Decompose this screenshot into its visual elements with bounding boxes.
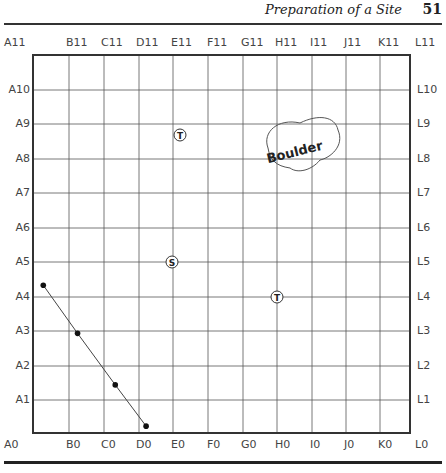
svg-text:S: S: [169, 258, 175, 268]
survey-point: [143, 423, 149, 429]
bottom-rule: [4, 461, 442, 464]
survey-point: [112, 382, 118, 388]
grid-border: [33, 55, 410, 433]
tree-marker-icon: T: [174, 129, 186, 141]
site-grid: TST Boulder: [0, 0, 446, 473]
svg-text:T: T: [274, 293, 281, 303]
survey-point: [75, 331, 81, 337]
boulder-label: Boulder: [265, 138, 325, 167]
grid-lines: [33, 55, 410, 433]
boulder-outline: Boulder: [265, 118, 340, 171]
survey-path: [40, 282, 148, 428]
tree-marker-icon: T: [271, 291, 283, 303]
svg-text:T: T: [177, 131, 184, 141]
stake-marker-icon: S: [166, 256, 178, 268]
survey-line: [43, 285, 146, 426]
survey-point: [40, 282, 46, 288]
